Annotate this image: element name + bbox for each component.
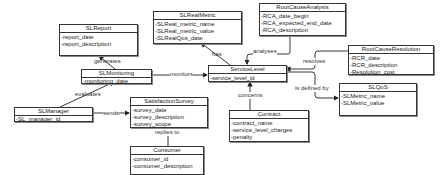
class-satisfactionsurvey[interactable]: SatisfactionSurvey -survey_date -survey_…: [130, 97, 208, 128]
attribute: -survey_date: [132, 107, 206, 114]
attribute: -SLReal_metric_value: [155, 28, 240, 35]
relation-label-generates: generates: [94, 58, 121, 65]
class-slreport[interactable]: SLReport -report_date -report_descriptio…: [59, 24, 138, 56]
class-name: RootCauseResolution: [349, 46, 433, 54]
attribute: -service_level_id: [210, 75, 285, 82]
class-name: SLQoS: [340, 84, 416, 92]
class-name: SLReport: [60, 25, 137, 33]
attribute: -SLReal_metric_name: [155, 21, 240, 28]
attribute: -Resolution_cost: [350, 69, 432, 76]
attribute: -SLRealQos_date: [155, 35, 240, 42]
attribute: -RCA_expected_end_date: [261, 20, 344, 27]
class-name: Consumer: [131, 147, 203, 155]
attribute: -survey_description: [132, 114, 206, 121]
attribute: -SLMetric_name: [341, 93, 415, 100]
class-servicelevel[interactable]: ServiceLevel -service_level_id: [208, 65, 287, 82]
class-name: RootCauseAnalysis: [260, 4, 345, 12]
relation-label-analyses: analyses: [253, 48, 277, 55]
class-name: SLMonitoring: [82, 70, 151, 78]
class-name: SLRealMetric: [154, 12, 241, 20]
class-rootcauseanalysis[interactable]: RootCauseAnalysis -RCA_date_begin -RCA_e…: [259, 3, 346, 36]
relation-label-concerns: concerns: [238, 92, 262, 99]
relation-label-monitors: monitors: [170, 71, 193, 78]
relation-label-has: has: [212, 51, 222, 58]
class-name: SLManager: [15, 108, 92, 116]
class-rootcauseresolution[interactable]: RootCauseResolution -RCR_date -RCR_descr…: [348, 45, 434, 75]
relation-label-is-defined-by: is defined by: [295, 85, 329, 92]
attribute: -RCR_date: [350, 55, 432, 62]
class-name: Contract: [230, 111, 308, 119]
class-name: SatisfactionSurvey: [131, 98, 207, 106]
attribute: -consumer_description: [132, 163, 202, 170]
relation-label-resolves: resolves: [303, 58, 325, 65]
class-consumer[interactable]: Consumer -consumer_id -consumer_descript…: [130, 146, 204, 175]
class-slqos[interactable]: SLQoS -SLMetric_name -SLMetric_value: [339, 83, 417, 116]
attribute: -SL_manager_id: [16, 116, 91, 123]
attribute: -service_level_charges: [231, 127, 307, 134]
attribute: -monitoring_date: [83, 78, 150, 85]
relation-label-evaluates: evaluates: [75, 91, 101, 98]
class-contract[interactable]: Contract -contract_name -service_level_c…: [229, 110, 309, 142]
attribute: -report_date: [61, 34, 136, 41]
attribute: -report_description: [61, 41, 136, 48]
attribute: -RCA_description: [261, 27, 344, 34]
attribute: -survey_scope: [132, 121, 206, 128]
attribute: -RCA_date_begin: [261, 13, 344, 20]
class-slrealmetric[interactable]: SLRealMetric -SLReal_metric_name -SLReal…: [153, 11, 242, 44]
relation-label-replies-to: replies to: [155, 129, 179, 136]
class-slmonitoring[interactable]: SLMonitoring -monitoring_date: [81, 69, 152, 84]
attribute: -penalty: [231, 134, 307, 141]
attribute: -consumer_id: [132, 156, 202, 163]
attribute: -contract_name: [231, 120, 307, 127]
class-slmanager[interactable]: SLManager -SL_manager_id: [14, 107, 93, 122]
class-name: ServiceLevel: [209, 66, 286, 74]
attribute: -SLMetric_value: [341, 100, 415, 107]
relation-label-sends: sends: [103, 110, 119, 117]
attribute: -RCR_description: [350, 62, 432, 69]
